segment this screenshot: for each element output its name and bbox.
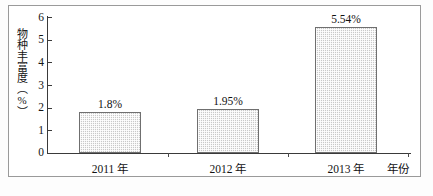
bar-label-2011: 1.8% <box>98 98 122 110</box>
x-category-label-2012: 2012 年 <box>210 160 247 176</box>
y-tick-label-5: 5 <box>30 34 44 46</box>
bar-label-2013: 5.54% <box>331 13 361 25</box>
bar-group-2011: 1.8% <box>79 17 141 153</box>
bar-group-2013: 5.54% <box>315 17 377 153</box>
x-tick-1 <box>168 153 169 157</box>
x-tick-2 <box>288 153 289 157</box>
x-tick-3 <box>408 153 409 157</box>
plot-area: 1.8% 1.95% 5.54% <box>47 17 410 153</box>
y-tick-label-2: 2 <box>30 102 44 114</box>
x-category-label-2013: 2013 年 <box>328 160 365 176</box>
bar-2013[interactable] <box>315 27 377 153</box>
bar-2011[interactable] <box>79 112 141 153</box>
x-axis-line <box>47 153 411 154</box>
figure-caption <box>0 184 433 196</box>
y-tick-label-1: 1 <box>30 125 44 137</box>
y-tick-label-6: 6 <box>30 12 44 24</box>
bar-group-2012: 1.95% <box>197 17 259 153</box>
y-tick-label-3: 3 <box>30 80 44 92</box>
x-axis-title: 年份 <box>387 160 409 176</box>
figure-container: 物种丰富度（%） 6 5 4 3 2 1 0 1.8% 1.95% 5.54% … <box>0 0 433 196</box>
bar-label-2012: 1.95% <box>213 95 243 107</box>
bar-2012[interactable] <box>197 109 259 153</box>
y-tick-label-4: 4 <box>30 57 44 69</box>
y-axis-title: 物种丰富度（%） <box>12 28 28 117</box>
x-category-label-2011: 2011 年 <box>92 160 128 176</box>
y-tick-label-0: 0 <box>30 147 44 159</box>
